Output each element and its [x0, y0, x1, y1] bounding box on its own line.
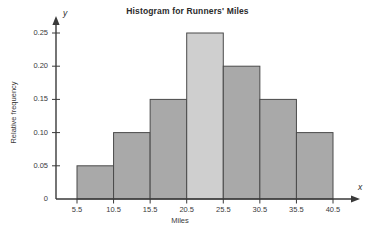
histogram-bar: [187, 33, 224, 199]
x-axis-arrowhead: [351, 195, 360, 202]
y-tick-label: 0.20: [14, 61, 48, 70]
bars-group: [77, 33, 333, 199]
y-axis-title: Relative frequency: [9, 58, 18, 168]
y-tick-label: 0.15: [14, 94, 48, 103]
x-tick-label: 40.5: [318, 205, 348, 214]
y-tick-label: 0.05: [14, 161, 48, 170]
x-tick-label: 35.5: [281, 205, 311, 214]
histogram-bar: [77, 166, 114, 199]
x-axis-title: Miles: [150, 216, 210, 225]
y-tick-label: 0: [14, 194, 48, 203]
histogram-bar: [150, 99, 187, 199]
y-tick-label: 0.10: [14, 128, 48, 137]
histogram-bar: [223, 66, 260, 199]
histogram-bar: [296, 133, 333, 199]
x-tick-label: 5.5: [62, 205, 92, 214]
x-tick-label: 25.5: [208, 205, 238, 214]
x-tick-label: 10.5: [99, 205, 129, 214]
y-axis-variable-label: y: [63, 8, 67, 18]
x-tick-label: 30.5: [245, 205, 275, 214]
histogram-figure: Histogram for Runners' Miles Relative fr…: [0, 0, 375, 232]
plot-area: [0, 0, 375, 232]
histogram-bar: [114, 133, 151, 199]
y-tick-label: 0.25: [14, 28, 48, 37]
x-tick-label: 20.5: [172, 205, 202, 214]
x-axis-variable-label: x: [358, 182, 362, 192]
y-axis-arrowhead: [52, 16, 59, 25]
x-tick-label: 15.5: [135, 205, 165, 214]
histogram-bar: [260, 99, 297, 199]
